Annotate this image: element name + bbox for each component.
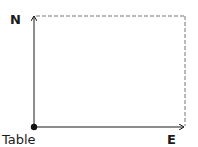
north-label: N <box>10 13 21 26</box>
displacement-diagram <box>0 0 198 147</box>
origin-label: Table <box>2 133 36 146</box>
east-label: E <box>167 133 176 146</box>
origin-dot <box>31 124 37 130</box>
